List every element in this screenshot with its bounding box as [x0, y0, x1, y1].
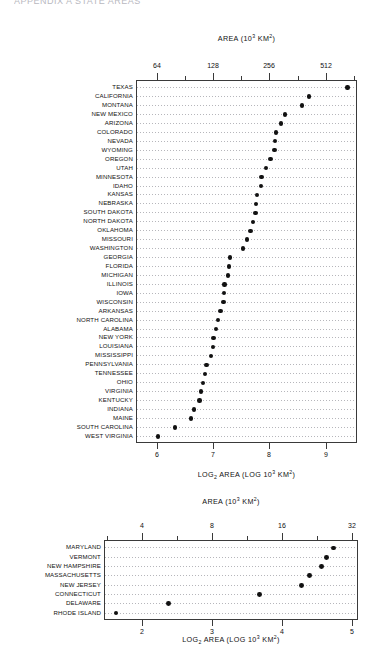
row-guide-line — [105, 594, 357, 595]
top-axis-minor-tick — [185, 76, 186, 80]
top-axis-major-tick — [269, 73, 270, 80]
row-guide-line — [137, 337, 356, 338]
data-point[interactable] — [307, 94, 311, 98]
state-label: CALIFORNIA — [0, 93, 133, 99]
state-label: MISSISSIPPI — [0, 352, 133, 358]
state-label: COLORADO — [0, 129, 133, 135]
data-point[interactable] — [192, 407, 196, 411]
top-axis-minor-tick — [107, 536, 108, 540]
data-point[interactable] — [156, 434, 160, 438]
row-guide-line — [137, 257, 356, 258]
top-axis-minor-tick — [241, 76, 242, 80]
row-guide-line — [137, 373, 356, 374]
data-point[interactable] — [204, 363, 208, 367]
state-label: VIRGINIA — [0, 388, 133, 394]
state-label: ALABAMA — [0, 326, 133, 332]
row-guide-line — [137, 284, 356, 285]
bottom-axis-tick-label: 3 — [192, 628, 232, 635]
data-point[interactable] — [345, 85, 349, 89]
top-axis-major-tick — [326, 73, 327, 80]
state-label: TEXAS — [0, 84, 133, 90]
top-axis-tick-label: 16 — [262, 522, 302, 529]
data-point[interactable] — [245, 237, 249, 241]
data-point[interactable] — [259, 175, 263, 179]
row-guide-line — [137, 230, 356, 231]
data-point[interactable] — [227, 264, 231, 268]
state-label: WISCONSIN — [0, 299, 133, 305]
data-point[interactable] — [300, 103, 304, 107]
row-guide-line — [105, 547, 357, 548]
state-label: ARKANSAS — [0, 308, 133, 314]
row-guide-line — [137, 364, 356, 365]
row-guide-line — [137, 302, 356, 303]
top-axis-minor-tick — [354, 76, 355, 80]
state-label: ARIZONA — [0, 120, 133, 126]
row-guide-line — [137, 409, 356, 410]
state-label: NEVADA — [0, 138, 133, 144]
data-point[interactable] — [189, 416, 193, 420]
state-label: KENTUCKY — [0, 397, 133, 403]
state-label: MISSOURI — [0, 236, 133, 242]
state-label: NORTH DAKOTA — [0, 218, 133, 224]
state-label: NEW JERSEY — [0, 582, 101, 588]
top-axis-major-tick — [213, 73, 214, 80]
state-label: IDAHO — [0, 183, 133, 189]
top-axis-major-tick — [212, 533, 213, 540]
top-axis-minor-tick — [177, 536, 178, 540]
row-guide-line — [137, 391, 356, 392]
row-guide-line — [105, 585, 357, 586]
top-axis-major-tick — [157, 73, 158, 80]
row-guide-line — [137, 186, 356, 187]
data-point[interactable] — [324, 555, 329, 560]
state-label: MARYLAND — [0, 544, 101, 550]
top-axis-minor-tick — [317, 536, 318, 540]
data-point[interactable] — [222, 282, 226, 286]
state-label: INDIANA — [0, 406, 133, 412]
state-label: GEORGIA — [0, 254, 133, 260]
state-label: MICHIGAN — [0, 272, 133, 278]
data-point[interactable] — [199, 389, 203, 393]
data-point[interactable] — [248, 229, 252, 233]
row-guide-line — [137, 436, 356, 437]
bottom-axis-major-tick — [269, 443, 270, 449]
state-label: NEW YORK — [0, 334, 133, 340]
data-point[interactable] — [211, 336, 215, 340]
row-guide-line — [137, 105, 356, 106]
state-label: FLORIDA — [0, 263, 133, 269]
top-axis-title-large: AREA (103 KM2) — [136, 34, 357, 43]
bottom-axis-major-tick — [213, 443, 214, 449]
bottom-axis-major-tick — [352, 620, 353, 626]
row-guide-line — [137, 168, 356, 169]
data-point[interactable] — [331, 546, 336, 551]
data-point[interactable] — [203, 372, 207, 376]
data-point[interactable] — [274, 130, 278, 134]
state-label: OKLAHOMA — [0, 227, 133, 233]
row-guide-line — [137, 132, 356, 133]
data-point[interactable] — [211, 345, 215, 349]
bottom-axis-tick-label: 5 — [332, 628, 372, 635]
bottom-axis-major-tick — [326, 443, 327, 449]
data-point[interactable] — [299, 583, 304, 588]
data-point[interactable] — [241, 246, 245, 250]
data-point[interactable] — [201, 381, 205, 385]
data-point[interactable] — [257, 592, 262, 597]
row-guide-line — [137, 293, 356, 294]
row-guide-line — [137, 221, 356, 222]
row-guide-line — [105, 575, 357, 576]
state-label: DELAWARE — [0, 600, 101, 606]
row-guide-line — [137, 141, 356, 142]
state-label: NEW HAMPSHIRE — [0, 563, 101, 569]
state-label: TENNESSEE — [0, 370, 133, 376]
top-axis-major-tick — [142, 533, 143, 540]
bottom-axis-tick-label: 6 — [137, 451, 177, 458]
row-guide-line — [137, 311, 356, 312]
bottom-axis-tick-label: 8 — [249, 451, 289, 458]
data-point[interactable] — [283, 112, 287, 116]
row-guide-line — [137, 87, 356, 88]
data-point[interactable] — [226, 273, 230, 277]
state-label: ILLINOIS — [0, 281, 133, 287]
bottom-axis-tick-label: 9 — [306, 451, 346, 458]
data-point[interactable] — [197, 398, 201, 402]
data-point[interactable] — [253, 211, 257, 215]
data-point[interactable] — [319, 564, 324, 569]
